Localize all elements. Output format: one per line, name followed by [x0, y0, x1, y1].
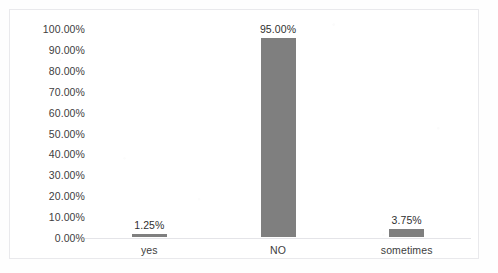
bar-slot: 3.75% [389, 29, 424, 238]
bar[interactable] [389, 229, 424, 237]
y-axis-tick-label: 0.00% [55, 232, 85, 244]
y-axis-tick-label: 30.00% [49, 169, 85, 181]
plot-area: 1.25%95.00%3.75% [85, 29, 471, 238]
bar-slot: 1.25% [132, 29, 167, 238]
y-axis-tick-label: 100.00% [43, 23, 85, 35]
x-axis: yesNOsometimes [85, 244, 471, 262]
bar-value-label: 95.00% [260, 23, 296, 35]
bar-value-label: 3.75% [392, 214, 422, 226]
chart-frame: 0.00%10.00%20.00%30.00%40.00%50.00%60.00… [9, 9, 479, 259]
axis-baseline [85, 238, 471, 239]
y-axis-tick-label: 90.00% [49, 44, 85, 56]
bar[interactable] [132, 234, 167, 237]
x-axis-tick-label: sometimes [381, 244, 433, 256]
x-axis-tick-label: NO [270, 244, 286, 256]
bar-slot: 95.00% [261, 29, 296, 238]
bar-series: 1.25%95.00%3.75% [85, 29, 471, 238]
x-axis-tick-label: yes [141, 244, 158, 256]
y-axis-tick-label: 70.00% [49, 86, 85, 98]
y-axis-tick-label: 80.00% [49, 65, 85, 77]
chart-page: 0.00%10.00%20.00%30.00%40.00%50.00%60.00… [0, 0, 498, 273]
y-axis-tick-label: 50.00% [49, 128, 85, 140]
y-axis-tick-label: 20.00% [49, 190, 85, 202]
y-axis-tick-label: 40.00% [49, 148, 85, 160]
y-axis-tick-label: 10.00% [49, 211, 85, 223]
bar[interactable] [261, 38, 296, 237]
y-axis-tick-label: 60.00% [49, 107, 85, 119]
bar-value-label: 1.25% [134, 219, 164, 231]
y-axis: 0.00%10.00%20.00%30.00%40.00%50.00%60.00… [22, 29, 85, 238]
